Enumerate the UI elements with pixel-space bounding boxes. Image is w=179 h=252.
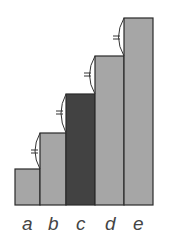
bar-d (95, 56, 124, 205)
bar-e (124, 18, 153, 205)
bar-c (66, 94, 95, 205)
step-marker-cd (84, 56, 95, 94)
label-a: a (22, 213, 33, 234)
step-bar-diagram: a b c d e (0, 0, 179, 252)
step-marker-bc (56, 94, 66, 133)
step-marker-ab (31, 133, 40, 169)
label-d: d (105, 213, 117, 234)
label-e: e (133, 213, 144, 234)
bar-a (15, 169, 40, 205)
label-c: c (76, 213, 86, 234)
bar-b (40, 133, 66, 205)
label-b: b (48, 213, 59, 234)
step-marker-de (113, 18, 124, 56)
